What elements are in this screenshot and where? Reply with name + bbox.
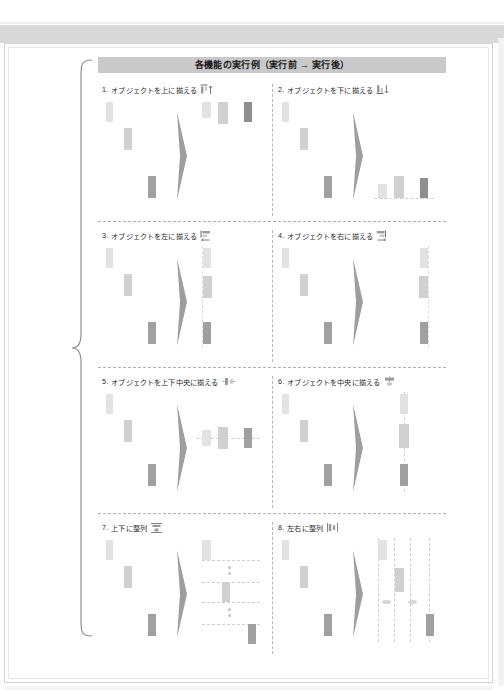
panel-4-illustration <box>274 244 446 362</box>
shape-before <box>324 176 332 198</box>
distribution-guide <box>202 560 260 561</box>
shape-before <box>148 614 156 636</box>
shape-after <box>426 614 434 636</box>
shape-after <box>218 102 228 124</box>
transform-arrow-icon <box>174 546 190 642</box>
panel-2-title: 2. オブジェクトを下に揃える <box>278 84 389 95</box>
panel-5-number: 5. <box>102 377 108 386</box>
panel-8-number: 8. <box>278 523 284 532</box>
shape-after <box>420 322 428 344</box>
panel-1-title: 1. オブジェクトを上に揃える <box>102 84 213 95</box>
alignment-guide <box>374 198 434 199</box>
transform-arrow-icon <box>174 108 190 204</box>
panel-8-label: 左右に整列 <box>287 523 323 533</box>
example-panel-2: 2. オブジェクトを下に揃える <box>272 80 448 219</box>
distribution-guide <box>202 582 260 583</box>
example-panel-7: 7. 上下に整列 <box>96 518 272 657</box>
transform-arrow-icon <box>350 400 366 496</box>
examples-grid: 1. オブジェクトを上に揃える <box>96 80 448 638</box>
example-panel-5: 5. オブジェクトを上下中央に揃える <box>96 372 272 511</box>
scan-edge-hairline <box>0 22 504 24</box>
scan-top-gray-band <box>0 25 504 43</box>
shape-after <box>202 102 211 118</box>
shape-after <box>399 424 409 448</box>
shape-after <box>244 428 252 448</box>
align-right-icon <box>376 230 389 241</box>
shape-before <box>124 420 132 442</box>
shape-after <box>420 178 428 198</box>
example-panel-6: 6. オブジェクトを中央に揃える <box>272 372 448 511</box>
panel-2-illustration <box>274 98 446 216</box>
spacing-marker <box>228 608 231 611</box>
shape-after <box>395 568 404 592</box>
panel-2-number: 2. <box>278 85 284 94</box>
distribution-guide <box>410 538 411 642</box>
panel-8-illustration <box>274 536 446 654</box>
scan-right-edge <box>498 38 504 686</box>
example-panel-1: 1. オブジェクトを上に揃える <box>96 80 272 219</box>
panel-4-number: 4. <box>278 231 284 240</box>
shape-before <box>106 102 113 122</box>
scanned-page: 各機能の実行例（実行前 → 実行後） 1. オブジェクトを上に揃える <box>0 0 504 694</box>
panel-2-label: オブジェクトを下に揃える <box>287 85 373 95</box>
shape-before <box>282 394 289 414</box>
panel-3-number: 3. <box>102 231 108 240</box>
shape-before <box>148 176 156 198</box>
panel-separator-horizontal <box>98 221 446 222</box>
panel-1-illustration <box>98 98 270 216</box>
panel-4-title: 4. オブジェクトを右に揃える <box>278 230 389 241</box>
transform-arrow-icon <box>350 108 366 204</box>
panel-7-label: 上下に整列 <box>111 523 147 533</box>
shape-before <box>106 248 113 268</box>
scan-bottom-edge <box>4 686 493 690</box>
alignment-guide <box>428 246 429 348</box>
distribute-horizontal-icon <box>326 522 339 533</box>
align-middle-icon <box>222 376 235 387</box>
shape-after <box>222 582 230 602</box>
shape-before <box>324 464 332 486</box>
panel-5-title: 5. オブジェクトを上下中央に揃える <box>102 376 235 387</box>
panel-6-label: オブジェクトを中央に揃える <box>287 377 380 387</box>
shape-after <box>400 464 408 486</box>
panel-6-number: 6. <box>278 377 284 386</box>
panel-separator-horizontal <box>98 367 446 368</box>
panel-8-title: 8. 左右に整列 <box>278 522 339 533</box>
align-top-icon <box>200 84 213 95</box>
panel-7-title: 7. 上下に整列 <box>102 522 163 533</box>
panel-6-title: 6. オブジェクトを中央に揃える <box>278 376 396 387</box>
shape-before <box>106 394 113 414</box>
spacing-marker <box>408 600 417 604</box>
align-center-icon <box>383 376 396 387</box>
shape-after <box>203 248 211 268</box>
transform-arrow-icon <box>350 254 366 350</box>
shape-after <box>203 322 211 344</box>
panel-5-label: オブジェクトを上下中央に揃える <box>111 377 218 387</box>
shape-before <box>106 540 113 560</box>
spacing-marker <box>228 572 231 575</box>
shape-after <box>202 540 211 560</box>
shape-after <box>248 624 256 644</box>
shape-before <box>282 102 289 122</box>
shape-before <box>148 464 156 486</box>
page-title: 各機能の実行例（実行前 → 実行後） <box>98 57 446 73</box>
distribute-vertical-icon <box>150 522 163 533</box>
panel-4-label: オブジェクトを右に揃える <box>287 231 373 241</box>
shape-before <box>300 566 308 588</box>
panel-3-title: 3. オブジェクトを左に揃える <box>102 230 213 241</box>
example-panel-4: 4. オブジェクトを右に揃える <box>272 226 448 365</box>
shape-before <box>124 566 132 588</box>
shape-after <box>400 394 408 414</box>
panel-1-number: 1. <box>102 85 108 94</box>
shape-after <box>419 276 428 298</box>
shape-after <box>394 176 404 198</box>
spacing-marker <box>228 614 231 617</box>
panel-7-illustration <box>98 536 270 654</box>
align-left-icon <box>200 230 213 241</box>
shape-before <box>124 274 132 296</box>
align-bottom-icon <box>376 84 389 95</box>
example-panel-3: 3. オブジェクトを左に揃える <box>96 226 272 365</box>
transform-arrow-icon <box>174 254 190 350</box>
panel-7-number: 7. <box>102 523 108 532</box>
transform-arrow-icon <box>350 546 366 642</box>
shape-before <box>124 128 132 150</box>
